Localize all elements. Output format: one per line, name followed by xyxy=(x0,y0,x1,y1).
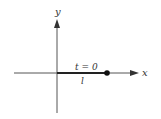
y-axis-label: y xyxy=(54,6,61,17)
length-label: l xyxy=(81,76,84,86)
coordinate-diagram: y x t = 0 l xyxy=(0,0,161,119)
y-axis-arrow-icon xyxy=(54,19,60,28)
end-point xyxy=(104,70,110,76)
time-label: t = 0 xyxy=(75,62,98,72)
x-axis-arrow-icon xyxy=(130,70,139,76)
x-axis-label: x xyxy=(142,67,148,78)
